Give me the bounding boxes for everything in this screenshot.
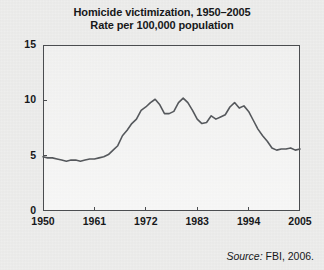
x-axis-tick-1972 <box>145 207 146 211</box>
x-axis-label-1961: 1961 <box>83 215 106 227</box>
x-axis-label-1994: 1994 <box>237 215 260 227</box>
x-axis-label-1972: 1972 <box>134 215 157 227</box>
source-note: Source: FBI, 2006. <box>226 250 314 262</box>
plot-area: 051015195019611972198319942005 <box>0 0 324 270</box>
x-axis-tick-1983 <box>197 207 198 211</box>
y-axis-tick-5 <box>43 155 47 156</box>
y-axis-tick-10 <box>43 100 47 101</box>
line-chart-canvas <box>43 45 300 211</box>
y-axis-label-15: 15 <box>2 38 36 50</box>
x-axis-tick-1961 <box>94 207 95 211</box>
source-label: Source: <box>226 250 262 262</box>
source-value: FBI, 2006. <box>263 250 314 262</box>
y-axis-tick-15 <box>43 45 47 46</box>
x-axis-label-1950: 1950 <box>31 215 54 227</box>
x-axis-tick-1994 <box>248 207 249 211</box>
y-axis-label-5: 5 <box>2 149 36 161</box>
y-axis-label-10: 10 <box>2 93 36 105</box>
series-line-homicide-rate <box>43 98 300 161</box>
x-axis-label-1983: 1983 <box>186 215 209 227</box>
chart-page: Homicide victimization, 1950–2005 Rate p… <box>0 0 324 270</box>
x-axis-label-2005: 2005 <box>288 215 311 227</box>
